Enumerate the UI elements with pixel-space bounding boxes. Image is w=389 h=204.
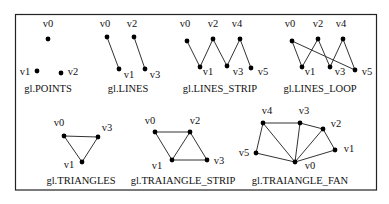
panel-triangle-strip: v0v1v2v3gl.TRAIANGLE_STRIP	[131, 115, 236, 186]
panel-points: v0v1v2gl.POINTS	[20, 18, 79, 94]
panel-triangles: v0v1v3gl.TRIANGLES	[46, 117, 115, 186]
edge-v3-v4	[227, 39, 240, 66]
vertex-label: v0	[305, 160, 316, 171]
edge-v2-v3	[213, 39, 227, 66]
edge-v0-v1	[155, 132, 172, 160]
vertex-dot-v0	[290, 39, 295, 44]
panel-caption: gl.LINES_STRIP	[183, 83, 258, 94]
edge-v0-v2	[295, 129, 323, 162]
vertex-dot-v0	[105, 35, 110, 40]
vertex-label: v4	[232, 18, 243, 29]
vertex-dot-v5	[353, 68, 358, 73]
vertex-dot-v2	[188, 130, 193, 135]
vertex-label: v0	[100, 18, 111, 29]
panel-caption: gl.TRAIANGLE_FAN	[252, 175, 349, 186]
panel-line-strip: v0v1v2v3v4v5gl.LINES_STRIP	[180, 18, 269, 94]
vertex-label: v1	[124, 69, 135, 80]
vertex-label: v2	[127, 18, 138, 29]
vertex-label: v1	[64, 159, 75, 170]
vertex-dot-v4	[238, 37, 243, 42]
edge-v2-v3	[300, 123, 323, 129]
edge-v3-v0	[64, 136, 98, 137]
vertex-dot-v0	[153, 130, 158, 135]
vertex-dot-v0	[293, 160, 298, 165]
edge-v2-v3	[190, 132, 207, 160]
vertex-label: v0	[54, 117, 65, 128]
vertex-label: v2	[68, 66, 79, 77]
vertex-label: v2	[208, 18, 219, 29]
panel-caption: gl.LINES	[108, 83, 149, 94]
vertex-dot-v1	[198, 65, 203, 70]
vertex-label: v4	[262, 105, 273, 116]
vertex-dot-v4	[341, 37, 346, 42]
vertex-label: v3	[214, 155, 225, 166]
vertex-dot-v3	[205, 158, 210, 163]
vertex-label: v5	[362, 66, 373, 77]
vertex-label: v3	[335, 66, 346, 77]
vertex-label: v1	[344, 143, 355, 154]
vertex-label: v3	[150, 69, 161, 80]
vertex-label: v0	[145, 115, 156, 126]
vertex-dot-v1	[80, 160, 85, 165]
edge-v1-v3	[82, 137, 98, 162]
vertex-label: v1	[305, 66, 316, 77]
vertex-label: v1	[203, 66, 214, 77]
vertex-label: v1	[152, 160, 163, 171]
panel-line-loop: v0v1v2v3v4v5gl.LINES_LOOP	[283, 18, 372, 94]
edge-v1-v2	[172, 132, 190, 160]
vertex-label: v0	[285, 18, 296, 29]
vertex-dot-v2	[132, 35, 137, 40]
vertex-dot-v3	[298, 121, 303, 126]
panel-caption: gl.POINTS	[24, 83, 72, 94]
edge-v1-v2	[323, 129, 335, 150]
edge-v0-v1	[107, 37, 119, 69]
vertex-dot-v5	[249, 66, 254, 71]
vertex-label: v2	[331, 118, 342, 129]
vertex-dot-v1	[300, 65, 305, 70]
vertex-dot-v2	[211, 37, 216, 42]
vertex-dot-v0	[62, 134, 67, 139]
vertex-label: v3	[102, 122, 113, 133]
vertex-dot-v4	[261, 121, 266, 126]
vertex-dot-v3	[328, 65, 333, 70]
edge-v4-v5	[240, 39, 251, 68]
vertex-dot-v2	[59, 71, 64, 76]
vertex-label: v2	[313, 18, 324, 29]
panel-caption: gl.LINES_LOOP	[283, 83, 356, 94]
edge-v1-v2	[302, 39, 318, 67]
edge-v2-v3	[318, 39, 330, 67]
vertex-dot-v1	[117, 67, 122, 72]
vertex-label: v3	[299, 105, 310, 116]
vertex-dot-v3	[143, 67, 148, 72]
panel-caption: gl.TRIANGLES	[46, 175, 115, 186]
primitive-types-diagram: v0v1v2gl.POINTSv0v1v2v3gl.LINESv0v1v2v3v…	[0, 0, 389, 204]
vertex-dot-v1	[333, 148, 338, 153]
vertex-label: v5	[239, 147, 250, 158]
edge-v0-v3	[295, 123, 300, 162]
vertex-dot-v1	[170, 158, 175, 163]
edge-v1-v2	[200, 39, 213, 67]
edge-v4-v5	[256, 123, 263, 153]
edge-v3-v4	[330, 39, 343, 67]
vertex-dot-v3	[96, 135, 101, 140]
vertex-dot-v2	[316, 37, 321, 42]
panel-lines: v0v1v2v3gl.LINES	[100, 18, 161, 94]
vertex-dot-v1	[35, 69, 40, 74]
edge-v0-v1	[187, 41, 200, 67]
panels: v0v1v2gl.POINTSv0v1v2v3gl.LINESv0v1v2v3v…	[20, 18, 373, 186]
vertex-label: v1	[20, 66, 31, 77]
vertex-label: v0	[180, 18, 191, 29]
vertex-label: v0	[43, 18, 54, 29]
panel-caption: gl.TRAIANGLE_STRIP	[131, 175, 236, 186]
vertex-dot-v3	[225, 64, 230, 69]
vertex-label: v5	[258, 66, 269, 77]
panel-triangle-fan: v0v1v2v3v4v5gl.TRAIANGLE_FAN	[239, 105, 355, 186]
vertex-dot-v0	[185, 39, 190, 44]
vertex-dot-v0	[46, 37, 51, 42]
vertex-label: v3	[233, 66, 244, 77]
vertex-label: v2	[190, 115, 201, 126]
edge-v2-v3	[134, 37, 145, 69]
vertex-dot-v5	[254, 151, 259, 156]
vertex-label: v4	[336, 18, 347, 29]
vertex-dot-v2	[321, 127, 326, 132]
